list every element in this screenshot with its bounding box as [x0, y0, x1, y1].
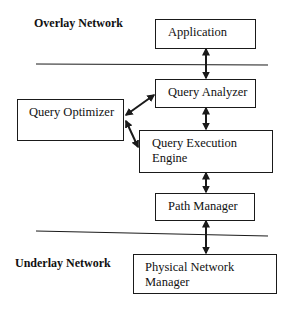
query-analyzer-label: Query Analyzer — [168, 85, 247, 100]
arrow-optimizer-query-analyzer — [126, 95, 154, 115]
physical-network-manager-box: Physical Network Manager — [133, 254, 277, 294]
physical-network-manager-label-line2: Manager — [145, 275, 189, 290]
query-analyzer-box: Query Analyzer — [155, 79, 256, 108]
path-manager-box: Path Manager — [155, 193, 255, 221]
application-box: Application — [155, 19, 256, 49]
physical-network-manager-label-line1: Physical Network — [145, 260, 234, 275]
application-label: Application — [168, 25, 227, 40]
query-execution-engine-label-line1: Query Execution — [152, 136, 237, 151]
underlay-network-label: Underlay Network — [15, 256, 111, 271]
path-manager-label: Path Manager — [168, 199, 238, 214]
query-execution-engine-label-line2: Engine — [152, 151, 187, 166]
query-optimizer-label: Query Optimizer — [29, 105, 114, 120]
query-optimizer-box: Query Optimizer — [17, 99, 124, 141]
overlay-network-label: Overlay Network — [34, 16, 123, 31]
query-execution-engine-box: Query Execution Engine — [139, 130, 273, 173]
overlay-divider-line — [36, 64, 268, 65]
arrow-optimizer-execution-engine — [126, 121, 138, 147]
underlay-divider-line — [36, 231, 268, 236]
